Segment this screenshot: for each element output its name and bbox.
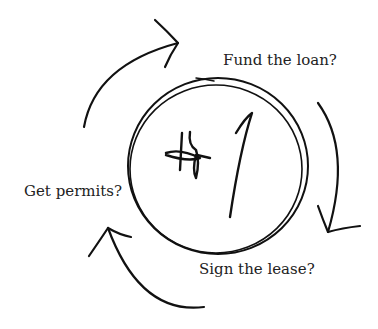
center-circle xyxy=(128,78,308,254)
arrow-bottom-left xyxy=(89,228,204,308)
step-label-sign-lease: Sign the lease? xyxy=(199,262,315,277)
step-label-fund-loan: Fund the loan? xyxy=(223,53,337,68)
step-label-get-permits: Get permits? xyxy=(24,184,122,199)
arrow-top-left xyxy=(84,20,178,127)
cycle-diagram: Fund the loan? Sign the lease? Get permi… xyxy=(0,0,378,329)
diagram-drawing xyxy=(0,0,378,329)
number-one-mark xyxy=(166,113,252,217)
arrow-right xyxy=(318,103,360,232)
